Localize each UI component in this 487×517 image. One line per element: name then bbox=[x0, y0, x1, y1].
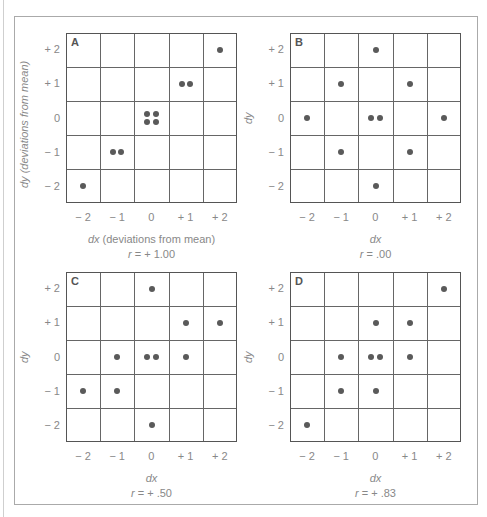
panel-letter: B bbox=[295, 36, 303, 48]
data-point bbox=[118, 149, 124, 155]
panel-letter: D bbox=[295, 275, 303, 287]
data-point bbox=[373, 47, 379, 53]
grid-line-horizontal bbox=[67, 374, 236, 375]
y-tick-label: 0 bbox=[24, 351, 60, 363]
grid-line-horizontal bbox=[291, 169, 460, 170]
grid-line-horizontal bbox=[291, 340, 460, 341]
grid-line-horizontal bbox=[291, 135, 460, 136]
scatter-panel-a: dy (deviations from mean)+ 2+ 10− 1− 2A−… bbox=[14, 33, 244, 273]
plot-grid: A bbox=[66, 33, 237, 203]
x-tick-label: − 2 bbox=[290, 211, 324, 223]
y-tick-label: + 1 bbox=[248, 316, 284, 328]
grid-line-horizontal bbox=[291, 67, 460, 68]
grid-line-vertical bbox=[393, 273, 394, 441]
correlation-value: = + .83 bbox=[359, 487, 396, 499]
x-tick-label: − 1 bbox=[324, 211, 358, 223]
data-point bbox=[183, 354, 189, 360]
data-point bbox=[217, 47, 223, 53]
y-tick-label: + 1 bbox=[248, 77, 284, 89]
y-tick-label: − 2 bbox=[248, 180, 284, 192]
x-tick-label: − 1 bbox=[324, 450, 358, 462]
x-tick-label: 0 bbox=[134, 450, 168, 462]
data-point bbox=[407, 149, 413, 155]
x-tick-label: + 1 bbox=[169, 211, 203, 223]
scatter-panel-d: dy+ 2+ 10− 1− 2D− 2− 10+ 1+ 2dxr = + .83 bbox=[238, 272, 468, 512]
data-point bbox=[407, 81, 413, 87]
x-tick-label: + 2 bbox=[427, 450, 461, 462]
grid-line-horizontal bbox=[291, 306, 460, 307]
data-point bbox=[80, 388, 86, 394]
data-point bbox=[338, 149, 344, 155]
x-tick-label: + 1 bbox=[169, 450, 203, 462]
data-point bbox=[217, 320, 223, 326]
grid-line-vertical bbox=[203, 34, 204, 202]
x-tick-label: + 2 bbox=[203, 211, 237, 223]
y-tick-label: 0 bbox=[248, 112, 284, 124]
data-point bbox=[110, 149, 116, 155]
panel-letter: C bbox=[71, 275, 79, 287]
data-point bbox=[377, 354, 383, 360]
data-point bbox=[368, 115, 374, 121]
y-tick-label: + 1 bbox=[24, 77, 60, 89]
y-tick-label: − 2 bbox=[248, 419, 284, 431]
grid-line-horizontal bbox=[67, 408, 236, 409]
y-tick-label: + 2 bbox=[24, 43, 60, 55]
y-tick-label: + 2 bbox=[248, 43, 284, 55]
y-tick-label: + 1 bbox=[24, 316, 60, 328]
x-tick-label: 0 bbox=[134, 211, 168, 223]
grid-line-vertical bbox=[100, 34, 101, 202]
x-axis-label: dx (deviations from mean) bbox=[66, 233, 237, 245]
data-point bbox=[407, 354, 413, 360]
data-point bbox=[441, 115, 447, 121]
data-point bbox=[407, 320, 413, 326]
grid-line-vertical bbox=[169, 273, 170, 441]
grid-line-vertical bbox=[324, 273, 325, 441]
x-axis-variable: dx bbox=[88, 233, 100, 245]
y-tick-label: 0 bbox=[248, 351, 284, 363]
data-point bbox=[187, 81, 193, 87]
plot-grid: B bbox=[290, 33, 461, 203]
y-tick-label: − 2 bbox=[24, 419, 60, 431]
grid-line-horizontal bbox=[291, 101, 460, 102]
data-point bbox=[338, 388, 344, 394]
x-axis-variable: dx bbox=[370, 472, 382, 484]
y-tick-label: − 1 bbox=[24, 146, 60, 158]
grid-line-horizontal bbox=[67, 135, 236, 136]
grid-line-horizontal bbox=[67, 101, 236, 102]
grid-line-vertical bbox=[427, 273, 428, 441]
grid-line-horizontal bbox=[67, 306, 236, 307]
x-tick-label: − 2 bbox=[66, 211, 100, 223]
grid-line-vertical bbox=[169, 34, 170, 202]
grid-line-horizontal bbox=[67, 67, 236, 68]
left-margin-rule bbox=[3, 0, 4, 517]
correlation-caption: r = .00 bbox=[290, 248, 461, 260]
correlation-caption: r = + .83 bbox=[290, 487, 461, 499]
correlation-caption: r = + 1.00 bbox=[66, 248, 237, 260]
data-point bbox=[114, 388, 120, 394]
data-point bbox=[368, 354, 374, 360]
data-point bbox=[80, 183, 86, 189]
data-point bbox=[179, 81, 185, 87]
data-point bbox=[153, 111, 159, 117]
y-tick-label: − 2 bbox=[24, 180, 60, 192]
x-tick-label: − 2 bbox=[290, 450, 324, 462]
data-point bbox=[144, 119, 150, 125]
grid-line-horizontal bbox=[291, 374, 460, 375]
grid-line-vertical bbox=[393, 34, 394, 202]
x-axis-variable: dx bbox=[370, 233, 382, 245]
x-axis-label: dx bbox=[66, 472, 237, 484]
data-point bbox=[153, 119, 159, 125]
data-point bbox=[338, 81, 344, 87]
scatter-panel-c: dy+ 2+ 10− 1− 2C− 2− 10+ 1+ 2dxr = + .50 bbox=[14, 272, 244, 512]
data-point bbox=[373, 320, 379, 326]
plot-grid: D bbox=[290, 272, 461, 442]
data-point bbox=[304, 115, 310, 121]
x-tick-label: + 2 bbox=[203, 450, 237, 462]
y-tick-label: − 1 bbox=[248, 385, 284, 397]
x-axis-label-rest: (deviations from mean) bbox=[100, 233, 216, 245]
data-point bbox=[144, 111, 150, 117]
data-point bbox=[144, 354, 150, 360]
y-tick-label: − 1 bbox=[24, 385, 60, 397]
grid-line-vertical bbox=[134, 273, 135, 441]
data-point bbox=[441, 286, 447, 292]
